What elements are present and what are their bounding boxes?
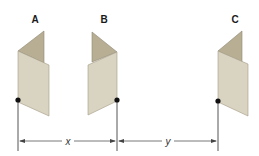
object-c-panel — [218, 51, 248, 116]
object-b-label: B — [100, 14, 107, 25]
folded-cards-diagram: A B C x y — [0, 0, 259, 156]
dimension-y-label: y — [165, 136, 172, 147]
object-a-pivot-dot — [15, 97, 20, 102]
object-b: B — [88, 14, 120, 151]
object-a: A — [15, 14, 49, 151]
dimension-x-arrow-right-icon — [110, 139, 116, 143]
object-c-label: C — [231, 14, 238, 25]
object-a-panel — [18, 51, 49, 116]
dimension-x-arrow-left-icon — [19, 139, 25, 143]
dimension-y-arrow-right-icon — [211, 139, 217, 143]
dimension-y-arrow-left-icon — [118, 139, 124, 143]
object-b-pivot-dot — [114, 97, 119, 102]
object-c-pivot-dot — [215, 98, 220, 103]
dimension-y: y — [118, 136, 217, 147]
dimension-x: x — [19, 136, 116, 147]
object-c: C — [215, 14, 248, 151]
dimension-x-label: x — [65, 136, 72, 147]
object-a-label: A — [31, 14, 38, 25]
